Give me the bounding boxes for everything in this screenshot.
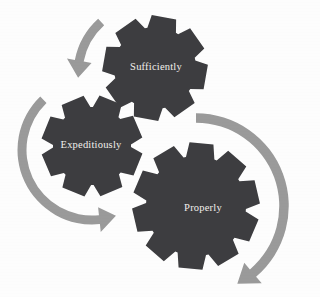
- gears-diagram-canvas: Sufficiently Expeditiously Properly: [0, 0, 320, 297]
- gear-label-sufficiently: Sufficiently: [130, 61, 182, 72]
- gear-label-expeditiously: Expeditiously: [61, 139, 122, 150]
- gear-label-properly: Properly: [184, 202, 222, 213]
- gears-diagram: Sufficiently Expeditiously Properly: [0, 0, 320, 297]
